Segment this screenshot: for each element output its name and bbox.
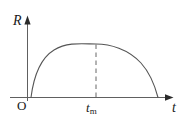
up-arrow-icon — [24, 16, 30, 25]
y-axis-label: R — [13, 14, 22, 28]
x-axis-label: t — [172, 101, 176, 115]
r-vs-t-curve — [31, 44, 158, 98]
origin-label: O — [17, 99, 26, 112]
tm-subscript: m — [90, 106, 97, 116]
tm-tick-label: tm — [86, 101, 97, 116]
graph-figure: R t O tm — [0, 0, 185, 127]
